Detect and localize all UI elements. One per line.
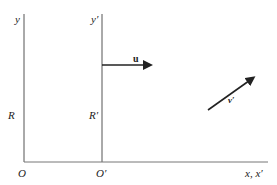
x-axis-label: x, x′ — [244, 167, 263, 179]
reference-frames-diagram: y y′ R R′ O O′ x, x′ u v′ — [0, 0, 277, 185]
frame-R-prime-label: R′ — [88, 109, 99, 121]
y-axis-label: y — [14, 13, 20, 25]
y-prime-axis-label: y′ — [90, 13, 99, 25]
origin-O-label: O — [18, 167, 26, 179]
v-prime-vector-label: v′ — [228, 95, 235, 105]
origin-O-prime-label: O′ — [96, 167, 107, 179]
frame-R-label: R — [7, 109, 15, 121]
v-prime-vector-arrow — [208, 78, 253, 110]
u-vector-label: u — [133, 53, 139, 64]
